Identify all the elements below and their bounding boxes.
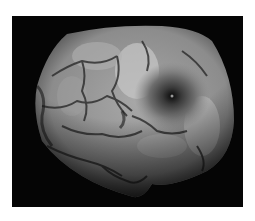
photo-frame <box>12 16 243 207</box>
fundus-image <box>12 16 243 207</box>
